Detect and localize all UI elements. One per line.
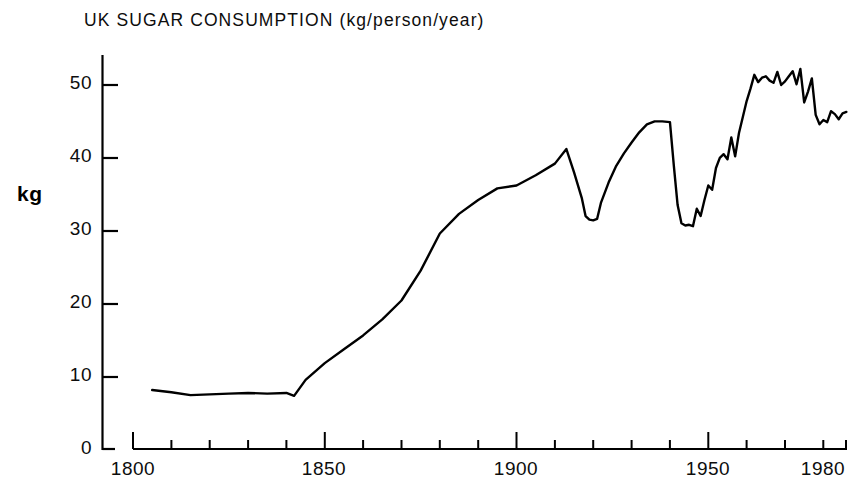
chart-figure: UK SUGAR CONSUMPTION (kg/person/year) kg… [0, 0, 866, 493]
data-series-line [152, 69, 846, 396]
y-tick-marks [103, 85, 119, 377]
x-tick-marks [133, 432, 846, 449]
plot-area [0, 0, 866, 493]
